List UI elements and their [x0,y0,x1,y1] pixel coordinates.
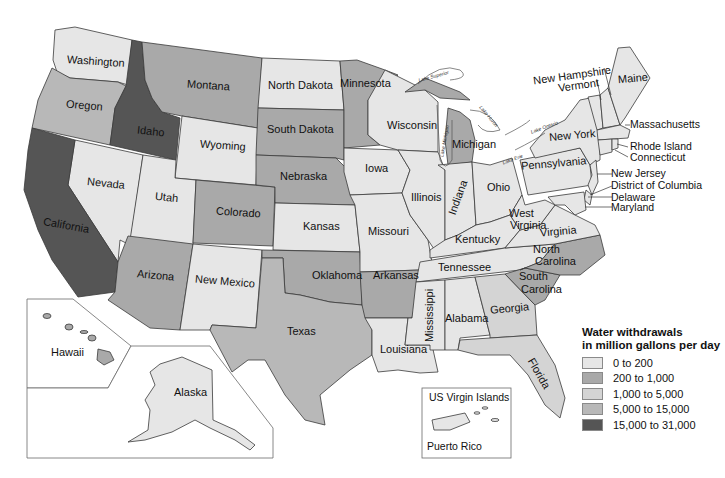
label-new-jersey: New Jersey [611,168,666,179]
label-minnesota: Minnesota [340,78,391,89]
legend-item: 200 to 1,000 [582,371,725,387]
label-nebraska: Nebraska [280,171,327,182]
legend-swatch [582,388,603,400]
label-texas: Texas [287,326,316,337]
label-arkansas: Arkansas [373,270,419,281]
label-kentucky: Kentucky [455,234,500,245]
label-missouri: Missouri [368,226,409,237]
label-massachusetts: Massachusetts [630,119,700,130]
map-legend: Water withdrawals in million gallons per… [582,326,725,433]
label-rhode-island: Rhode Island [630,141,692,152]
label-illinois: Illinois [411,192,442,203]
label-kansas: Kansas [303,221,340,232]
label-connecticut: Connecticut [630,152,685,163]
legend-item: 15,000 to 31,000 [582,417,725,433]
label-puerto-rico: Puerto Rico [427,441,482,452]
label-south-dakota: South Dakota [267,124,334,135]
label-mississippi: Mississippi [424,289,435,342]
label-tennessee: Tennessee [438,262,491,273]
label-west-virginia-1: West [509,208,534,219]
legend-item: 0 to 200 [582,355,725,371]
state-arizona [108,236,193,330]
label-maryland: Maryland [611,202,654,213]
label-north-dakota: North Dakota [268,80,333,91]
label-west-virginia-2: Virginia [510,220,547,231]
label-hawaii: Hawaii [51,347,84,358]
label-utah: Utah [154,191,178,204]
label-north-carolina-1: North [533,244,560,255]
label-wisconsin: Wisconsin [387,120,437,131]
legend-label: 200 to 1,000 [613,372,674,384]
state-rhode-island [612,139,618,150]
state-michigan [445,108,475,165]
legend-label: 5,000 to 15,000 [613,403,689,415]
legend-label: 15,000 to 31,000 [613,419,696,431]
legend-swatch [582,419,603,431]
label-oklahoma: Oklahoma [312,270,362,281]
legend-item: 5,000 to 15,000 [582,402,725,418]
label-alaska: Alaska [174,387,207,398]
legend-swatch [582,357,603,369]
label-ohio: Ohio [487,182,510,193]
state-connecticut [598,139,612,155]
legend-title-line1: Water withdrawals [582,326,725,339]
legend-label: 0 to 200 [613,357,653,369]
label-iowa: Iowa [365,163,388,174]
legend-item: 1,000 to 5,000 [582,386,725,402]
label-north-carolina-2: Carolina [535,256,576,267]
legend-label: 1,000 to 5,000 [613,388,683,400]
legend-swatch [582,372,603,384]
label-us-virgin-islands: US Virgin Islands [429,392,509,403]
label-michigan: Michigan [452,139,496,150]
legend-swatch [582,403,603,415]
label-louisiana: Louisiana [380,344,427,355]
label-alabama: Alabama [445,313,488,324]
label-south-carolina-2: Carolina [521,284,562,295]
legend-title-line2: in million gallons per day [582,339,725,352]
label-dc: District of Columbia [611,180,702,191]
label-south-carolina-1: South [519,271,548,282]
